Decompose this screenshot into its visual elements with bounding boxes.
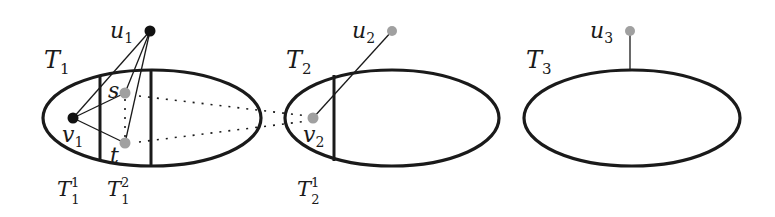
component-t1: T1 T11 T21 — [43, 46, 261, 207]
edge-t-v2-dotted — [139, 121, 308, 142]
tree-decomposition-diagram: T1 T11 T21 T2 T12 T3 — [0, 0, 775, 217]
component-t3: T3 — [524, 46, 740, 166]
t3-ellipse — [524, 70, 740, 166]
edge-s-v2-dotted — [139, 96, 308, 116]
label-v2: v2 — [303, 122, 324, 150]
node-t — [120, 138, 131, 149]
component-t2: T2 T12 — [285, 46, 499, 207]
node-u2 — [387, 26, 397, 36]
edge-u1-t — [125, 31, 150, 143]
t2-label: T2 — [286, 46, 312, 78]
edge-u1-v1 — [73, 31, 150, 118]
label-u1: u1 — [110, 18, 133, 46]
label-u3: u3 — [590, 18, 613, 46]
t2-part1-label: T12 — [297, 175, 320, 207]
t1-part2-label: T21 — [107, 175, 130, 207]
node-u3 — [625, 26, 635, 36]
label-t: t — [110, 143, 119, 168]
node-u1 — [145, 26, 156, 37]
label-u2: u2 — [352, 18, 375, 46]
label-s: s — [108, 78, 119, 103]
t1-part1-label: T11 — [57, 175, 80, 207]
t3-label: T3 — [526, 46, 552, 78]
label-v1: v1 — [62, 122, 83, 150]
t1-label: T1 — [44, 46, 70, 78]
edge-u2-v2 — [313, 31, 392, 118]
node-s — [120, 88, 131, 99]
node-labels: u1 u2 u3 v1 v2 s t — [62, 18, 613, 168]
